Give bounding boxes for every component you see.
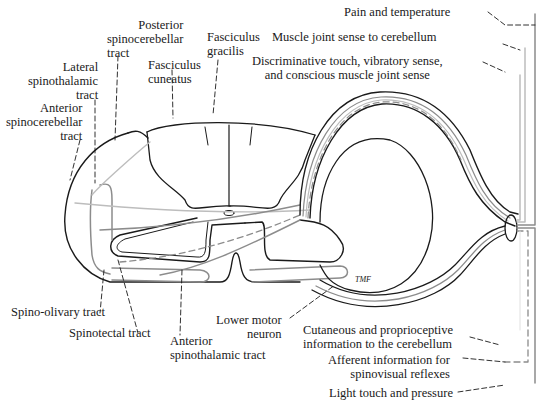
label-fasciculus-cuneatus: Fasciculus cuneatus: [148, 58, 201, 86]
label-cutaneous-proprioceptive: Cutaneous and proprioceptive information…: [303, 323, 453, 351]
cord-outline: [65, 133, 300, 282]
label-lateral-spinothalamic: Lateral spinothalamic tract: [28, 60, 98, 102]
label-muscle-joint-cerebellum: Muscle joint sense to cerebellum: [272, 30, 437, 44]
label-light-touch-pressure: Light touch and pressure: [329, 386, 453, 400]
artist-signature: TMF: [355, 275, 371, 284]
label-spino-olivary: Spino-olivary tract: [11, 305, 105, 319]
label-anterior-spinocerebellar: Anterior spinocerebellar tract: [6, 101, 82, 143]
label-discriminative-touch: Discriminative touch, vibratory sense, a…: [252, 54, 443, 82]
spinal-nerve-cut: [505, 215, 517, 241]
label-afferent-spinovisual: Afferent information for spinovisual ref…: [328, 353, 450, 381]
label-pain-temperature: Pain and temperature: [344, 5, 450, 19]
gray-matter-right: [245, 220, 343, 262]
label-spinotectal: Spinotectal tract: [69, 326, 151, 340]
label-posterior-spinocerebellar: Posterior spinocerebellar tract: [107, 18, 183, 60]
label-lower-motor-neuron: Lower motor neuron: [216, 313, 282, 341]
posterior-columns: [147, 123, 315, 135]
